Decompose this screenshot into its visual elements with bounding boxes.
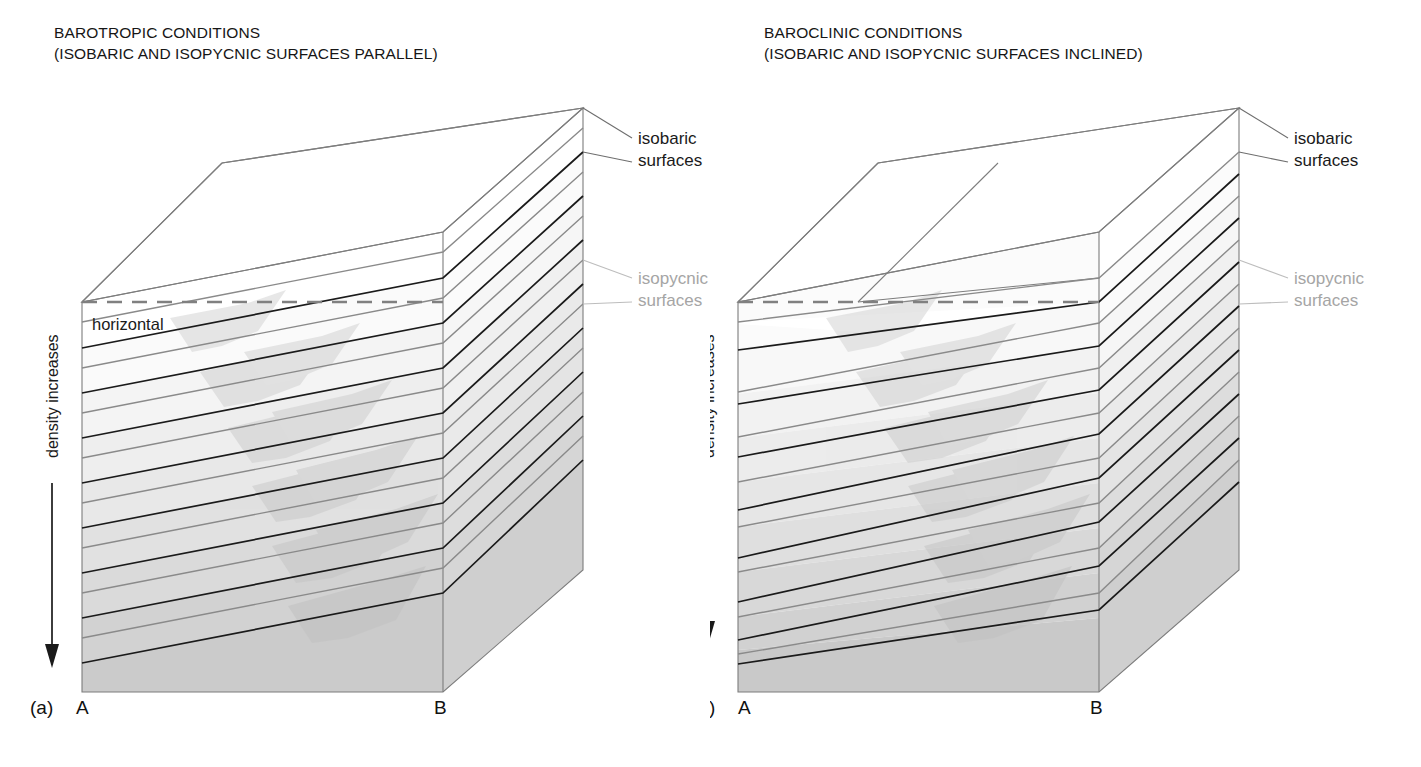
density-arrow-a (45, 483, 59, 668)
corner-label-b-right: B (1090, 697, 1103, 718)
block-diagram-baroclinic: isobaric surfaces isopycnic surfaces den… (710, 0, 1421, 767)
isobaric-label-line1-a: isobaric (638, 129, 697, 148)
panel-tag-b: (b) (710, 697, 715, 718)
isopycnic-label-line2-b: surfaces (1294, 291, 1358, 310)
leader-lines-isobaric-b (1239, 108, 1288, 162)
isobaric-label-line1-b: isobaric (1294, 129, 1353, 148)
leader-lines-isopycnic-b (1239, 260, 1288, 304)
panel-baroclinic: BAROCLINIC CONDITIONS (ISOBARIC AND ISOP… (710, 0, 1421, 767)
corner-label-a-right: B (434, 697, 447, 718)
panel-tag-a: (a) (30, 697, 53, 718)
isobaric-label-line2-b: surfaces (1294, 151, 1358, 170)
isobaric-label-line2-a: surfaces (638, 151, 702, 170)
corner-label-a-left: A (76, 697, 89, 718)
isopycnic-label-line1-b: isopycnic (1294, 269, 1364, 288)
leader-lines-isobaric-a (583, 108, 632, 162)
isopycnic-label-line2-a: surfaces (638, 291, 702, 310)
block-diagram-barotropic: horizontal isobaric surfaces isopycnic s… (0, 0, 710, 767)
density-axis-label-a: density increases (44, 334, 61, 458)
corner-label-b-left: A (738, 697, 751, 718)
leader-lines-isopycnic-a (583, 260, 632, 304)
density-arrow-b (710, 483, 715, 645)
density-axis-label-b: density increases (710, 334, 717, 458)
horizontal-label-a: horizontal (92, 315, 164, 333)
panel-barotropic: BAROTROPIC CONDITIONS (ISOBARIC AND ISOP… (0, 0, 710, 767)
isopycnic-label-line1-a: isopycnic (638, 269, 708, 288)
